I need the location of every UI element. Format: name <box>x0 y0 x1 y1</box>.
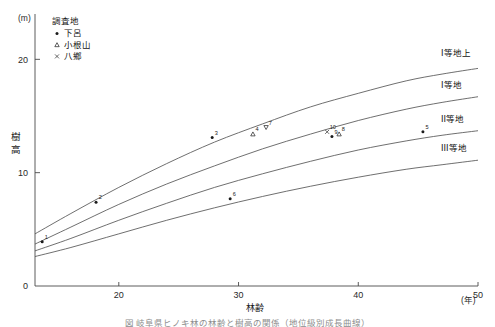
data-point-marker <box>421 130 424 133</box>
data-point-label: 6 <box>233 191 236 197</box>
data-point-label: 9 <box>335 129 338 135</box>
legend-marker <box>55 43 59 47</box>
y-axis-unit: (m) <box>18 13 31 23</box>
legend-item-label: 小根山 <box>64 40 91 50</box>
legend-item-label: 下呂 <box>64 28 82 38</box>
data-point-marker <box>330 135 333 138</box>
y-axis-title-char: 高 <box>11 144 21 155</box>
data-point-label: 7 <box>269 120 272 126</box>
data-point-marker <box>211 136 214 139</box>
x-tick-label: 30 <box>234 290 244 300</box>
x-tick-label: 40 <box>353 290 363 300</box>
growth-curve <box>35 97 478 244</box>
figure-caption: 図 岐阜県ヒノキ林の林齢と樹高の関係（地位級別成長曲線） <box>0 318 495 327</box>
legend-item-label: 八鄉 <box>64 51 82 61</box>
data-point-label: 8 <box>342 126 345 132</box>
curve-label: II等地 <box>441 114 464 124</box>
data-point-marker <box>251 132 255 136</box>
growth-curve <box>35 160 478 256</box>
data-point-marker <box>229 197 232 200</box>
y-tick-label: 10 <box>18 168 28 178</box>
curve-label: I等地上 <box>441 48 471 58</box>
x-axis-ticks: 20304050 <box>114 282 483 300</box>
x-axis-unit: (年) <box>461 295 476 305</box>
y-tick-label: 20 <box>18 55 28 65</box>
legend-title: 調査地 <box>52 16 79 26</box>
y-axis-title-char: 樹 <box>11 131 21 142</box>
curve-label: I等地 <box>441 80 462 90</box>
data-point-marker <box>95 201 98 204</box>
growth-curves <box>35 68 478 256</box>
data-point-marker <box>325 130 329 134</box>
x-tick-label: 20 <box>114 290 124 300</box>
curve-labels: I等地上I等地II等地III等地 <box>441 48 471 153</box>
chart-canvas: 01020 20304050 (m) (年) 樹高 林齢 I等地上I等地II等地… <box>0 0 495 327</box>
growth-curve <box>35 131 478 251</box>
data-point-marker <box>41 240 44 243</box>
data-point-marker <box>264 126 268 130</box>
curve-label: III等地 <box>441 143 467 153</box>
x-axis-title: 林齢 <box>246 302 264 313</box>
legend: 調査地下呂小根山八鄉 <box>52 16 91 61</box>
data-point-label: 4 <box>256 126 259 132</box>
site-index-chart: 01020 20304050 (m) (年) 樹高 林齢 I等地上I等地II等地… <box>0 0 495 327</box>
legend-marker <box>55 54 59 58</box>
y-axis-title: 樹高 <box>11 131 21 155</box>
y-tick-label: 0 <box>23 281 28 291</box>
data-point-label: 3 <box>215 130 218 136</box>
data-point-label: 5 <box>426 124 429 130</box>
data-point-label: 1 <box>45 234 48 240</box>
legend-marker <box>56 32 59 35</box>
data-point-label: 2 <box>99 194 102 200</box>
